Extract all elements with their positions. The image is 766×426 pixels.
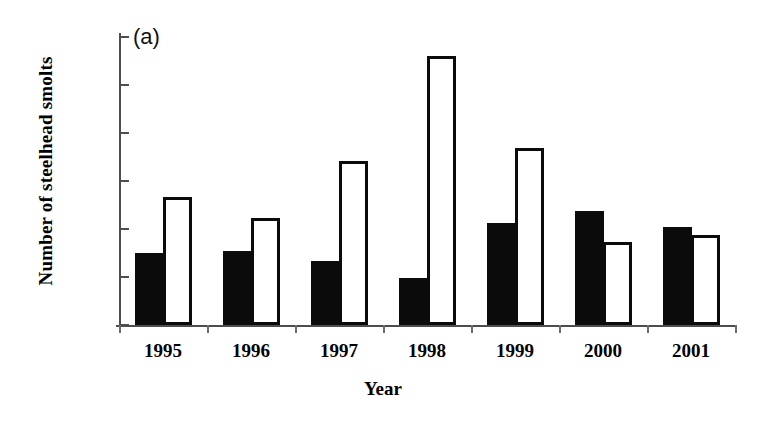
x-axis-tick xyxy=(559,325,561,333)
bar-open-white-series-1997[interactable] xyxy=(339,161,368,325)
bar-filled-black-series-2000[interactable] xyxy=(575,211,604,325)
bar-open-white-series-2000[interactable] xyxy=(603,242,632,325)
bar-group xyxy=(559,37,647,325)
bar-group xyxy=(383,37,471,325)
x-axis-tick xyxy=(207,325,209,333)
x-axis-tick-label: 1998 xyxy=(383,340,471,362)
chart-figure: Number of steelhead smolts (a) 010002000… xyxy=(0,0,766,426)
x-axis-tick-label: 1995 xyxy=(119,340,207,362)
bar-group xyxy=(207,37,295,325)
bar-group xyxy=(295,37,383,325)
bar-filled-black-series-2001[interactable] xyxy=(663,227,692,325)
bar-group xyxy=(647,37,735,325)
y-axis-title: Number of steelhead smolts xyxy=(35,21,57,321)
x-axis-title: Year xyxy=(0,378,766,400)
bar-open-white-series-1999[interactable] xyxy=(515,148,544,325)
bar-open-white-series-1995[interactable] xyxy=(163,197,192,325)
bar-group xyxy=(119,37,207,325)
bar-filled-black-series-1996[interactable] xyxy=(223,251,252,325)
x-axis-tick xyxy=(295,325,297,333)
x-axis-tick xyxy=(647,325,649,333)
bar-filled-black-series-1999[interactable] xyxy=(487,223,516,325)
x-axis-tick-label: 1999 xyxy=(471,340,559,362)
x-axis-tick xyxy=(471,325,473,333)
x-axis-line xyxy=(116,325,736,327)
x-axis-tick-label: 1997 xyxy=(295,340,383,362)
x-axis-tick xyxy=(735,325,737,333)
bar-filled-black-series-1997[interactable] xyxy=(311,261,340,325)
bar-open-white-series-2001[interactable] xyxy=(691,235,720,325)
bar-filled-black-series-1998[interactable] xyxy=(399,278,428,325)
bar-open-white-series-1998[interactable] xyxy=(427,56,456,325)
x-axis-tick xyxy=(383,325,385,333)
x-axis-tick-label: 2000 xyxy=(559,340,647,362)
plot-area: 0100020003000400050006000199519961997199… xyxy=(119,37,736,325)
x-axis-tick-label: 2001 xyxy=(647,340,735,362)
x-axis-tick-label: 1996 xyxy=(207,340,295,362)
x-axis-tick xyxy=(119,325,121,333)
bar-group xyxy=(471,37,559,325)
bar-filled-black-series-1995[interactable] xyxy=(135,253,164,325)
bar-open-white-series-1996[interactable] xyxy=(251,218,280,325)
